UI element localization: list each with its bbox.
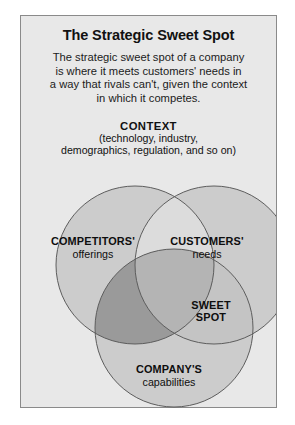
context-block: CONTEXT (technology, industry, demograph… — [21, 120, 276, 157]
intro-paragraph: The strategic sweet spot of a company is… — [21, 51, 276, 105]
figure-root: The Strategic Sweet Spot The strategic s… — [0, 0, 295, 425]
venn-diagram: COMPETITORS' offerings CUSTOMERS' needs … — [21, 171, 276, 408]
intro-line-4: in which it competes. — [21, 92, 276, 106]
intro-line-3: a way that rivals can't, given the conte… — [21, 78, 276, 92]
intro-line-1: The strategic sweet spot of a company — [21, 51, 276, 65]
venn-svg — [21, 171, 276, 408]
context-title: CONTEXT — [21, 120, 276, 132]
intro-line-2: is where it meets customers' needs in — [21, 65, 276, 79]
context-subtitle-line-2: demographics, regulation, and so on) — [21, 144, 276, 156]
context-subtitle-line-1: (technology, industry, — [21, 132, 276, 144]
diagram-panel: The Strategic Sweet Spot The strategic s… — [20, 15, 277, 408]
page-title: The Strategic Sweet Spot — [21, 27, 276, 43]
context-subtitle: (technology, industry, demographics, reg… — [21, 132, 276, 157]
